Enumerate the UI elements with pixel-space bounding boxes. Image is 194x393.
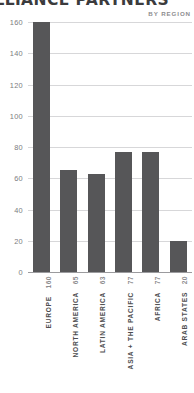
y-tick-label: 0 — [19, 268, 23, 277]
y-tick-label: 80 — [14, 143, 23, 152]
y-tick-label: 60 — [14, 174, 23, 183]
x-tick-value: 65 — [72, 276, 79, 292]
bar-slot — [55, 22, 82, 272]
x-label-slot: AFRICA 77 — [137, 274, 164, 392]
x-tick-value: 63 — [99, 276, 106, 292]
bar-slot — [165, 22, 192, 272]
bar-series — [28, 22, 192, 272]
bar-slot — [137, 22, 164, 272]
y-tick-label: 120 — [10, 80, 23, 89]
x-label-slot: LATIN AMERICA 63 — [83, 274, 110, 392]
x-label-slot: ASIA + THE PACIFIC 77 — [110, 274, 137, 392]
axis-baseline: 0 — [28, 272, 192, 273]
bar[interactable] — [115, 152, 132, 272]
x-tick-category: LATIN AMERICA — [99, 292, 106, 353]
x-label-slot: ARAB STATES 20 — [165, 274, 192, 392]
x-tick-category: NORTH AMERICA — [72, 292, 79, 358]
x-tick-value: 77 — [154, 276, 161, 292]
y-tick-label: 40 — [14, 205, 23, 214]
bar[interactable] — [170, 241, 187, 272]
bar[interactable] — [88, 174, 105, 272]
page-title: ALLIANCE PARTNERS — [0, 0, 194, 9]
chart-subtitle: BY REGION — [148, 10, 191, 17]
y-tick-label: 160 — [10, 18, 23, 27]
bar-slot — [83, 22, 110, 272]
x-tick-category: EUROPE — [45, 296, 52, 328]
x-label-slot: EUROPE 160 — [28, 274, 55, 392]
x-tick-label: ASIA + THE PACIFIC 77 — [127, 276, 135, 369]
x-label-slot: NORTH AMERICA 65 — [55, 274, 82, 392]
x-tick-label: LATIN AMERICA 63 — [99, 276, 107, 353]
x-axis-labels: EUROPE 160NORTH AMERICA 65LATIN AMERICA … — [28, 274, 192, 392]
plot-area: 160140120100806040200 — [28, 22, 192, 272]
y-tick-label: 20 — [14, 236, 23, 245]
bar-slot — [110, 22, 137, 272]
bar[interactable] — [33, 22, 50, 272]
x-tick-value: 160 — [45, 276, 52, 296]
y-tick-label: 140 — [10, 49, 23, 58]
bar-slot — [28, 22, 55, 272]
y-tick-label: 100 — [10, 111, 23, 120]
x-tick-label: NORTH AMERICA 65 — [72, 276, 80, 358]
x-tick-category: AFRICA — [154, 292, 161, 321]
x-tick-category: ASIA + THE PACIFIC — [127, 292, 134, 369]
x-tick-label: AFRICA 77 — [154, 276, 162, 321]
x-tick-value: 77 — [127, 276, 134, 292]
bar[interactable] — [142, 152, 159, 272]
x-tick-category: ARAB STATES — [181, 292, 188, 346]
bar[interactable] — [60, 170, 77, 272]
x-tick-value: 20 — [181, 276, 188, 292]
x-tick-label: ARAB STATES 20 — [181, 276, 189, 346]
x-tick-label: EUROPE 160 — [45, 276, 53, 328]
